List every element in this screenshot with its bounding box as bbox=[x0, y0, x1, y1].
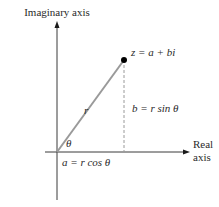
imaginary-axis-label: Imaginary axis bbox=[24, 6, 90, 18]
complex-plane-diagram: Imaginary axis z = a + bi r θ b = r sin … bbox=[0, 0, 219, 207]
real-axis-arrow-icon bbox=[183, 150, 190, 155]
point-z-label: z = a + bi bbox=[130, 46, 175, 58]
vertical-component-label: b = r sin θ bbox=[132, 102, 179, 114]
point-z bbox=[121, 57, 127, 63]
modulus-label: r bbox=[84, 104, 89, 116]
real-axis-label-line1: Real bbox=[193, 138, 213, 150]
real-axis-label-line2: axis bbox=[193, 151, 211, 163]
horizontal-component-label: a = r cos θ bbox=[62, 156, 111, 168]
angle-label: θ bbox=[66, 137, 72, 149]
imaginary-axis-arrow-icon bbox=[55, 21, 60, 28]
